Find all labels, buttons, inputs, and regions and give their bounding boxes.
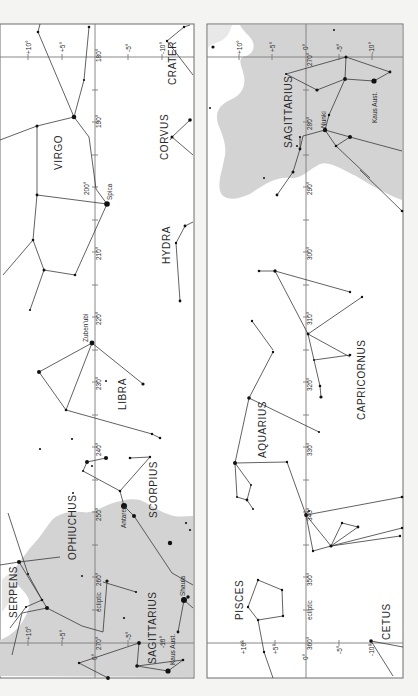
label-nunki: Nunki — [320, 111, 327, 128]
label-crater: CRATER — [167, 41, 178, 85]
lon-label-330: 330° — [306, 442, 313, 456]
label-shaula: Shaula — [179, 575, 186, 596]
label-aquarius: AQUARIUS — [257, 401, 268, 458]
lon-label-210: 210° — [95, 246, 102, 260]
star-spica — [104, 201, 110, 207]
star-shaula — [181, 597, 187, 603]
lon-label-320: 320° — [306, 377, 313, 391]
dec-label-zero-right: 0° — [302, 43, 309, 50]
star-kaus-aust — [371, 78, 376, 83]
label-pisces: PISCES — [234, 580, 245, 620]
dec-label-minus5-bottom: -5° — [125, 631, 132, 640]
label-kaus-aust-right: Kaus Aust. — [371, 92, 378, 123]
lon-label-270: 270° — [306, 52, 313, 66]
dec-label-plus5-right: +5° — [269, 42, 276, 52]
lon-label-270: 270° — [95, 636, 102, 650]
lon-label-280: 280° — [306, 116, 313, 130]
dec-label-plus5-bottom-right: +5° — [272, 644, 279, 654]
left-panel: 180° 190° 200° 210° 220° 230° 240° 250° … — [0, 24, 194, 680]
lon-label-300: 300° — [306, 246, 313, 260]
lon-label-200: 200° — [83, 181, 90, 195]
label-corvus: CORVUS — [159, 114, 170, 160]
label-ophiuchus: OPHIUCHUS — [67, 495, 78, 560]
lon-label-220: 220° — [95, 311, 102, 325]
label-libra: LIBRA — [117, 378, 128, 410]
dec-label-minus5-bottom-right: -5° — [336, 645, 343, 654]
lon-label-190: 190° — [95, 114, 102, 128]
dec-label-plus10-bottom-right: +10° — [240, 640, 247, 654]
label-scorpius: SCORPIUS — [148, 461, 159, 518]
star-zubenubi — [90, 341, 95, 346]
dec-label-minus5: -5° — [125, 43, 132, 52]
lon-label-350: 350° — [306, 572, 313, 586]
dec-label-zero-bottom-right: 0° — [302, 653, 309, 660]
dec-label-plus10-bottom: +10° — [25, 626, 32, 640]
label-cetus: CETUS — [381, 603, 392, 640]
lon-label-240: 240° — [95, 442, 102, 456]
label-hydra: HYDRA — [161, 226, 172, 264]
label-zubenubi: Zuben'ubi — [82, 314, 89, 342]
label-capricornus: CAPRICORNUS — [356, 340, 367, 421]
lon-label-290: 290° — [306, 181, 313, 195]
ecliptic-label-right: ecliptic — [306, 599, 314, 620]
lon-label-260: 260° — [95, 572, 102, 586]
dec-label-plus5-bottom: +5° — [59, 630, 66, 640]
dec-label-minus10: -10° — [159, 42, 166, 54]
lon-label-310: 310° — [306, 311, 313, 325]
label-virgo: VIRGO — [53, 135, 64, 170]
lon-label-180: 180° — [95, 48, 102, 62]
dec-label-plus10: +10° — [25, 40, 32, 54]
lon-label-360: 360° — [306, 636, 313, 650]
lon-label-250: 250° — [95, 507, 102, 521]
label-kaus-aust-left: Kaus Aust. — [169, 634, 176, 665]
dec-label-minus10-right: -10° — [368, 42, 375, 54]
dec-label-plus10-right: +10° — [236, 40, 243, 54]
label-sagittarius-right: SAGITTARIUS — [283, 75, 294, 148]
ecliptic-label: ecliptic — [95, 591, 103, 612]
star-chart: 180° 190° 200° 210° 220° 230° 240° 250° … — [0, 0, 418, 696]
lon-label-230: 230° — [95, 376, 102, 390]
dec-label-plus5: +5° — [59, 42, 66, 52]
label-serpens: SERPENS — [8, 566, 19, 618]
label-sagittarius-left: SAGITTARIUS — [147, 591, 158, 664]
dec-label-minus10-bottom: -10° — [159, 636, 166, 648]
label-antares: Antares — [120, 505, 127, 528]
label-spica: Spica — [106, 183, 114, 200]
right-panel: 270° 280° 290° 300° 310° 320° 330° 340° … — [207, 24, 403, 678]
dec-label-minus5-right: -5° — [336, 43, 343, 52]
